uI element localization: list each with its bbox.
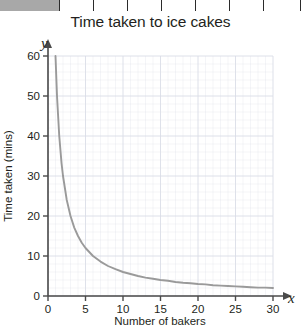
y-tick-label: 0 — [34, 290, 40, 302]
x-tick-label: 10 — [117, 303, 130, 315]
x-tick-label: 20 — [192, 303, 205, 315]
chart-screenshot: Time taken to ice cakes 0102030405060051… — [0, 0, 301, 332]
x-tick-label: 0 — [45, 303, 51, 315]
x-axis-title: Number of bakers — [114, 315, 206, 327]
y-tick-label: 40 — [27, 130, 40, 142]
data-curve — [56, 56, 274, 288]
series-line — [56, 56, 274, 288]
x-tick-label: 30 — [267, 303, 280, 315]
plot-area: 0102030405060051015202530 y x Number of … — [0, 0, 301, 332]
axis-tick-labels: 0102030405060051015202530 — [27, 50, 279, 315]
y-tick-label: 50 — [27, 90, 40, 102]
y-axis-letter: y — [39, 35, 48, 51]
y-tick-label: 20 — [27, 210, 40, 222]
x-tick-label: 5 — [82, 303, 88, 315]
y-tick-label: 60 — [27, 50, 40, 62]
y-axis-title: Time taken (mins) — [2, 130, 14, 222]
x-tick-label: 25 — [229, 303, 242, 315]
x-axis-letter: x — [287, 290, 295, 306]
x-tick-label: 15 — [154, 303, 167, 315]
y-tick-label: 10 — [27, 250, 40, 262]
y-tick-label: 30 — [27, 170, 40, 182]
grid-major — [48, 56, 273, 296]
